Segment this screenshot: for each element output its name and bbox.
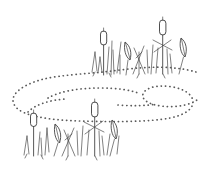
illustration-canvas: Marsh cattails with winding dotted trail <box>0 0 208 171</box>
marsh-cattail-drawing <box>0 0 208 171</box>
canvas-background <box>0 0 208 171</box>
